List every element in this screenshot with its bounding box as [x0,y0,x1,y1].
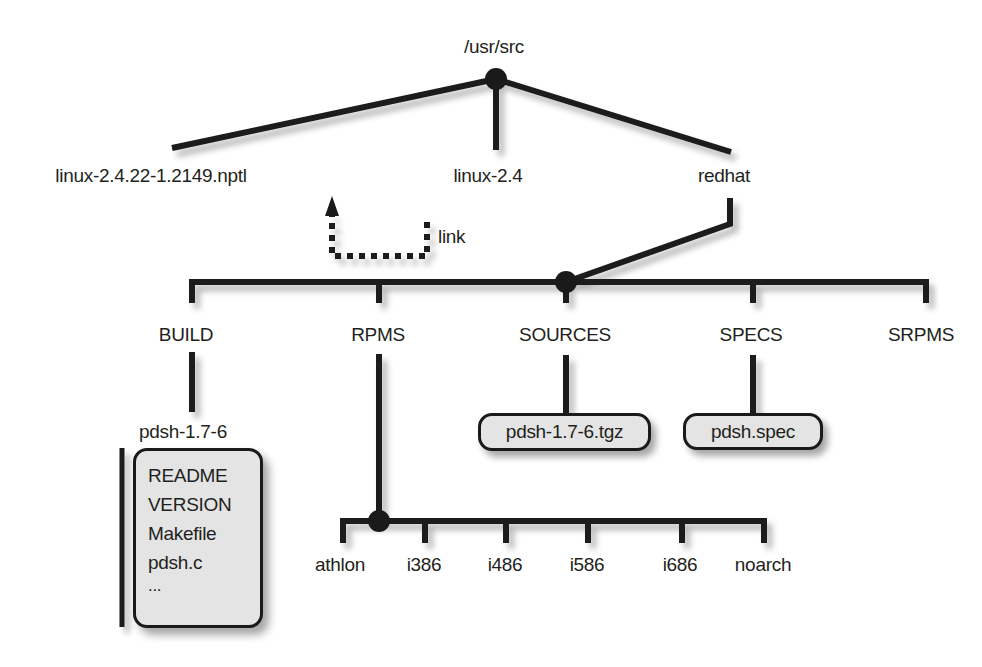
build-file-list: README VERSION Makefile pdsh.c ... [133,448,263,628]
file-readme: README [148,461,260,490]
node-noarch: noarch [735,554,791,576]
file-makefile: Makefile [148,519,260,548]
edge-redhat-to-hub [566,198,730,282]
rpms-children-bar [343,521,764,543]
edge-root-to-redhat [496,79,731,152]
link-arrowhead-icon [325,196,339,216]
node-redhat: redhat [698,165,750,187]
file-version: VERSION [148,490,260,519]
redhat-hub-dot [555,271,577,293]
node-build: BUILD [159,324,213,346]
link-label: link [438,226,465,248]
rpms-hub-dot [368,510,390,532]
node-i386: i386 [407,554,442,576]
file-pdsh-c: pdsh.c [148,548,260,577]
edge-root-to-nptl [172,79,496,148]
node-i686: i686 [663,554,698,576]
node-srpms: SRPMS [888,324,954,346]
file-pdsh-tgz: pdsh-1.7-6.tgz [478,413,651,451]
node-linux-2-4: linux-2.4 [453,165,522,187]
root-label: /usr/src [464,36,524,58]
file-ellipsis: ... [148,577,260,595]
node-specs: SPECS [720,324,783,346]
node-i486: i486 [488,554,523,576]
root-node-dot [485,68,507,90]
node-linux-2-4-22-nptl: linux-2.4.22-1.2149.nptl [55,165,246,187]
node-i586: i586 [570,554,605,576]
node-sources: SOURCES [519,324,611,346]
node-pdsh-subdir: pdsh-1.7-6 [139,421,227,443]
link-arrow-path [332,214,427,256]
directory-tree-diagram: /usr/src linux-2.4.22-1.2149.nptl linux-… [0,0,982,667]
node-rpms: RPMS [351,324,405,346]
file-pdsh-spec: pdsh.spec [683,413,823,450]
node-athlon: athlon [315,554,365,576]
